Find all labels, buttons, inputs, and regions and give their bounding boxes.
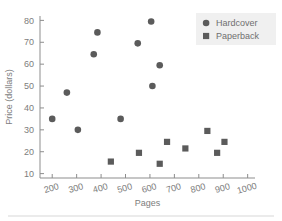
- data-point-circle[interactable]: [148, 18, 155, 25]
- x-tick-label: 500: [116, 181, 133, 195]
- chart-canvas: 1020304050607080200300400500600700800900…: [0, 0, 282, 221]
- y-axis-title: Price (dollars): [4, 69, 14, 125]
- data-point-circle[interactable]: [49, 116, 56, 123]
- legend-label: Paperback: [216, 31, 260, 41]
- x-tick-label: 800: [189, 181, 206, 195]
- data-point-circle[interactable]: [64, 89, 71, 96]
- data-point-circle[interactable]: [117, 116, 124, 123]
- y-tick-label: 80: [24, 16, 34, 26]
- data-point-square[interactable]: [221, 139, 227, 145]
- data-point-square[interactable]: [164, 139, 170, 145]
- x-tick-label: 600: [141, 181, 158, 195]
- data-point-circle[interactable]: [94, 29, 101, 36]
- data-point-circle[interactable]: [75, 127, 82, 134]
- data-point-square[interactable]: [214, 150, 220, 156]
- data-point-circle[interactable]: [149, 83, 156, 90]
- y-tick-label: 50: [24, 81, 34, 91]
- scatter-plot-figure: 1020304050607080200300400500600700800900…: [0, 0, 282, 221]
- legend-marker-circle: [203, 20, 210, 27]
- series-paperback: [108, 128, 228, 167]
- data-point-square[interactable]: [157, 161, 163, 167]
- legend-label: Hardcover: [216, 18, 258, 28]
- data-point-square[interactable]: [136, 150, 142, 156]
- legend-marker-square: [203, 33, 209, 39]
- y-tick-label: 40: [24, 103, 34, 113]
- x-tick-label: 1000: [236, 181, 258, 196]
- x-tick-label: 400: [92, 181, 109, 195]
- x-axis-title: Pages: [135, 198, 161, 208]
- y-tick-label: 10: [24, 169, 34, 179]
- x-tick-label: 700: [165, 181, 182, 195]
- data-point-square[interactable]: [204, 128, 210, 134]
- data-point-square[interactable]: [108, 158, 114, 164]
- x-tick-label: 200: [43, 181, 60, 195]
- data-point-square[interactable]: [182, 145, 188, 151]
- x-tick-label: 900: [214, 181, 231, 195]
- y-tick-label: 30: [24, 125, 34, 135]
- y-tick-label: 70: [24, 37, 34, 47]
- data-point-circle[interactable]: [134, 40, 141, 47]
- data-point-circle[interactable]: [156, 62, 163, 69]
- data-point-circle[interactable]: [90, 51, 97, 58]
- x-tick-label: 300: [67, 181, 84, 195]
- series-hardcover: [49, 18, 163, 133]
- y-tick-label: 20: [24, 147, 34, 157]
- y-tick-label: 60: [24, 59, 34, 69]
